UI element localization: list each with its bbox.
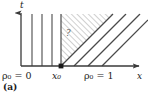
x0-label: x₀ (52, 71, 61, 81)
left-characteristics-group (32, 14, 52, 66)
x0-point-marker (59, 64, 64, 69)
x-axis-label: x (137, 72, 142, 81)
figure-characteristic-diagram: t x ρ₀ = 0 x₀ ρ₀ = 1 ? (a) (0, 0, 148, 97)
left-state-label: ρ₀ = 0 (2, 71, 31, 81)
figure-caption: (a) (3, 83, 17, 92)
unknown-region-label: ? (66, 29, 71, 38)
right-state-label: ρ₀ = 1 (84, 71, 113, 81)
characteristic-diagonal (102, 20, 148, 66)
t-axis-label: t (20, 1, 24, 10)
diagram-canvas (0, 0, 148, 97)
